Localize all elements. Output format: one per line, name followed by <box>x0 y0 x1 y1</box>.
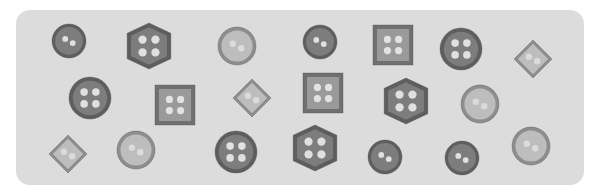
circle-button-2hole <box>508 123 554 169</box>
square-button-4hole <box>151 81 199 129</box>
circle-button-4hole <box>436 24 486 74</box>
circle-icon <box>441 137 483 179</box>
diamond-button-2hole <box>45 131 91 177</box>
circle-icon <box>457 81 503 127</box>
square-icon <box>299 69 347 117</box>
circle-button-4hole <box>65 73 115 123</box>
square-icon <box>151 81 199 129</box>
diamond-button-2hole <box>510 36 556 82</box>
circle-button-2hole <box>364 136 406 178</box>
circle-icon <box>211 127 261 177</box>
circle-icon <box>65 73 115 123</box>
hexagon-button-4hole <box>379 74 433 128</box>
diamond-icon <box>510 36 556 82</box>
square-button-4hole <box>369 21 417 69</box>
circle-button-2hole <box>457 81 503 127</box>
hexagon-icon <box>122 19 176 73</box>
circle-icon <box>436 24 486 74</box>
circle-button-2hole <box>113 127 159 173</box>
hexagon-button-4hole <box>122 19 176 73</box>
circle-button-2hole <box>48 20 90 62</box>
circle-icon <box>299 21 341 63</box>
diamond-icon <box>45 131 91 177</box>
diamond-button-2hole <box>229 75 275 121</box>
circle-button-2hole <box>299 21 341 63</box>
hexagon-icon <box>288 121 342 175</box>
circle-icon <box>48 20 90 62</box>
circle-icon <box>364 136 406 178</box>
circle-icon <box>214 23 260 69</box>
hexagon-button-4hole <box>288 121 342 175</box>
circle-button-2hole <box>441 137 483 179</box>
circle-icon <box>113 127 159 173</box>
diamond-icon <box>229 75 275 121</box>
circle-button-2hole <box>214 23 260 69</box>
circle-icon <box>508 123 554 169</box>
circle-button-4hole <box>211 127 261 177</box>
square-button-4hole <box>299 69 347 117</box>
square-icon <box>369 21 417 69</box>
hexagon-icon <box>379 74 433 128</box>
button-assortment-image <box>0 0 600 195</box>
